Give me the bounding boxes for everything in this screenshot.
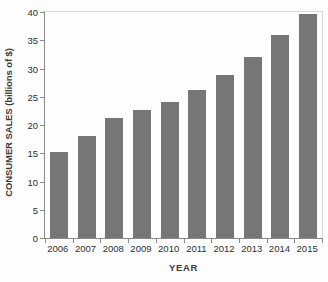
x-axis-tick [45, 238, 46, 243]
y-axis-tick-label: 5 [33, 204, 38, 215]
bar [78, 136, 96, 238]
y-axis-tick-label: 35 [27, 35, 38, 46]
bar [271, 35, 289, 238]
x-axis-tick-label: 2011 [186, 243, 206, 254]
x-axis-tick-label: 2013 [241, 243, 262, 254]
x-axis-tick [100, 238, 101, 243]
y-axis-title: CONSUMER SALES (billions of $) [0, 0, 16, 244]
y-axis-tick-label: 0 [33, 233, 38, 244]
y-axis-tick-label: 15 [27, 148, 38, 159]
bar [244, 57, 262, 238]
x-axis-title: YEAR [44, 262, 323, 273]
x-axis-tick-label: 2014 [269, 243, 290, 254]
bar-chart-figure: CONSUMER SALES (billions of $) 051015202… [0, 0, 328, 282]
y-axis-tick-label: 20 [27, 120, 38, 131]
x-axis-tick [211, 238, 212, 243]
bar [161, 102, 179, 238]
x-axis-tick-label: 2010 [158, 243, 179, 254]
bar [216, 75, 234, 238]
y-axis-tick-label: 30 [27, 63, 38, 74]
bar [105, 118, 123, 238]
bar [188, 90, 206, 238]
y-axis-tick-label: 25 [27, 91, 38, 102]
x-axis-tick-label: 2015 [297, 243, 318, 254]
plot-area: 0510152025303540 [44, 11, 323, 239]
y-axis-tick-label: 40 [27, 7, 38, 18]
y-axis-title-text: CONSUMER SALES (billions of $) [3, 48, 14, 196]
x-axis-tick-label: 2006 [47, 243, 68, 254]
x-axis-tick [128, 238, 129, 243]
x-axis-tick [322, 238, 323, 243]
x-axis-tick-label: 2007 [75, 243, 96, 254]
x-axis-tick [156, 238, 157, 243]
x-axis-tick-label: 2012 [213, 243, 234, 254]
x-axis-tick [267, 238, 268, 243]
y-axis-tick-label: 10 [27, 176, 38, 187]
x-axis-tick [294, 238, 295, 243]
bar [50, 152, 68, 238]
x-axis-tick [239, 238, 240, 243]
bar [133, 110, 151, 238]
x-axis-tick-label: 2009 [130, 243, 151, 254]
x-axis-tick [184, 238, 185, 243]
bar-series [45, 12, 322, 238]
x-axis-tick-label: 2008 [103, 243, 124, 254]
bar [299, 14, 317, 238]
x-axis-tick [73, 238, 74, 243]
